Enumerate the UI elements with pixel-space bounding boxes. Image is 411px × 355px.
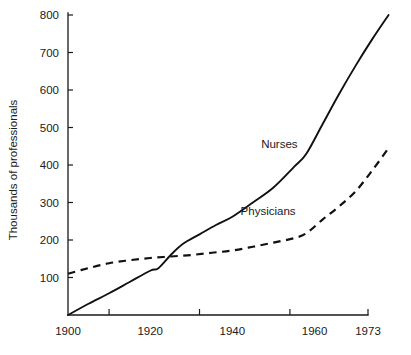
chart-series <box>68 15 389 315</box>
x-axis-tick-labels: 19001920194019601973 <box>55 325 381 337</box>
x-tick-label-1973: 1973 <box>355 325 381 337</box>
y-tick-label-400: 400 <box>40 159 59 171</box>
chart-axes <box>68 13 368 315</box>
series-line-physicians <box>68 148 389 274</box>
series-label-physicians: Physicians <box>241 205 296 217</box>
y-tick-label-500: 500 <box>40 122 59 134</box>
x-axis-tick-marks <box>109 309 368 315</box>
y-axis-title: Thousands of professionals <box>7 99 19 240</box>
x-tick-label-1900: 1900 <box>55 325 81 337</box>
y-tick-label-200: 200 <box>40 234 59 246</box>
chart-container: 100200300400500600700800 190019201940196… <box>0 0 411 355</box>
y-tick-label-700: 700 <box>40 47 59 59</box>
x-tick-label-1960: 1960 <box>302 325 328 337</box>
y-tick-label-300: 300 <box>40 197 59 209</box>
y-axis-tick-labels: 100200300400500600700800 <box>40 9 59 284</box>
x-tick-label-1920: 1920 <box>137 325 163 337</box>
axis-lines <box>68 13 368 315</box>
y-tick-label-100: 100 <box>40 272 59 284</box>
series-line-nurses <box>68 15 389 315</box>
y-tick-label-800: 800 <box>40 9 59 21</box>
y-axis-tick-marks <box>68 15 73 278</box>
x-tick-label-1940: 1940 <box>220 325 246 337</box>
y-tick-label-600: 600 <box>40 84 59 96</box>
line-chart: 100200300400500600700800 190019201940196… <box>0 0 411 355</box>
series-annotation-labels: NursesPhysicians <box>241 138 298 216</box>
series-label-nurses: Nurses <box>261 138 298 150</box>
